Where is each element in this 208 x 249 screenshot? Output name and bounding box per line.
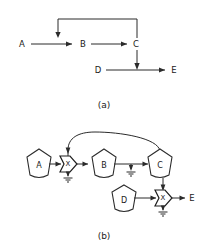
gate-1-label: X xyxy=(66,160,71,168)
arrowhead-feedback xyxy=(55,32,60,38)
panel-b: A X B xyxy=(27,132,195,241)
node-label-b-panel-b: B xyxy=(101,161,107,170)
node-label-c-panel-a: C xyxy=(133,39,139,49)
node-label-c-panel-b: C xyxy=(157,161,163,170)
arrowhead-b-to-c-panel-b xyxy=(143,162,149,167)
edge-feedback-arc-panel-b xyxy=(68,132,160,151)
caption-panel-b: (b) xyxy=(98,231,111,241)
node-label-d-panel-b: D xyxy=(121,196,127,205)
arrowhead-c-drop xyxy=(134,63,139,70)
caption-panel-a: (a) xyxy=(98,100,111,110)
arrowhead-b-to-c xyxy=(121,41,127,46)
node-label-e-panel-b: E xyxy=(189,193,194,203)
panel-a: A B C D E (a) xyxy=(19,19,177,110)
node-label-b-panel-a: B xyxy=(80,39,86,49)
figure-canvas: A B C D E (a) A X xyxy=(0,0,208,249)
node-label-e-panel-a: E xyxy=(171,65,176,75)
arrowhead-gate2-to-e xyxy=(180,196,186,201)
arrowhead-gate1-to-b xyxy=(83,162,89,167)
node-label-a-panel-a: A xyxy=(19,39,25,49)
arrowhead-d-to-e xyxy=(159,67,165,72)
figure-root: A B C D E (a) A X xyxy=(0,0,208,249)
node-label-a-panel-b: A xyxy=(36,161,42,170)
ground-3-arrow xyxy=(161,206,165,212)
arrowhead-a-to-gate1 xyxy=(56,162,62,167)
arrowhead-a-to-b xyxy=(66,41,72,46)
gate-2-label: X xyxy=(161,194,166,202)
ground-2-arrow xyxy=(129,165,133,171)
arrowhead-d-to-gate2 xyxy=(151,196,157,201)
node-label-d-panel-a: D xyxy=(95,65,102,75)
ground-1-arrow xyxy=(66,172,70,178)
